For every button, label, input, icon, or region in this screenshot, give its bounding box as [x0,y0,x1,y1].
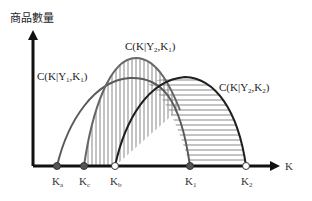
tick-label-k2: K2 [241,175,253,189]
label-y1-k1: C(K|Y1,K1) [37,70,88,84]
x-axis-arrow-icon [270,161,280,171]
y-axis-label: 商品數量 [10,11,54,25]
capacity-curves-diagram: 商品數量 K C(K|Y1,K1) C(K|Y2,K1) C(K|Y2,K2) … [0,0,312,201]
marker-ka [54,163,61,170]
tick-label-kc: Kc [79,175,90,189]
marker-kb [112,163,119,170]
vertical-hatch-region [88,50,176,170]
y-axis-arrow-icon [28,30,38,40]
label-y2-k2: C(K|Y2,K2) [219,81,270,95]
tick-label-k1: K1 [185,175,197,189]
tick-label-ka: Ka [52,175,64,189]
marker-k2 [243,163,250,170]
tick-label-kb: Kb [110,175,122,189]
marker-k1 [187,163,194,170]
label-y2-k1: C(K|Y2,K1) [125,40,176,54]
marker-kc [81,163,88,170]
x-axis-label: K [285,160,293,172]
